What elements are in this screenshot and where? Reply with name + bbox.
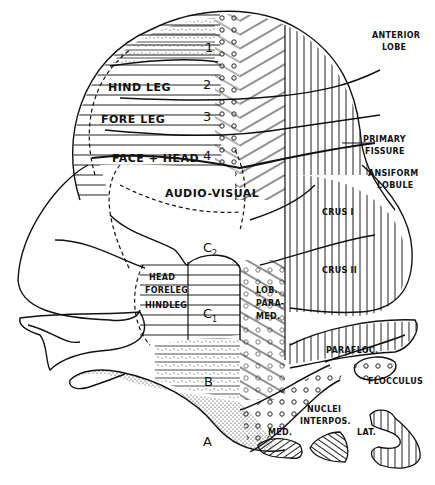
audio-visual-label: AUDIO-VISUAL: [165, 187, 259, 200]
zone-3-number: 3: [203, 109, 211, 124]
paraflocculus-label: PARAFLOC.: [326, 346, 378, 355]
section-c1-subscript: 1: [212, 315, 217, 324]
zone-3-label: FORE LEG: [101, 113, 165, 126]
nucleus-medial: [258, 439, 302, 459]
zone-2-label: HIND LEG: [108, 81, 171, 94]
anterior-lobe-label: ANTERIOR: [372, 31, 420, 40]
ansiform-lobule-label: ANSIFORM: [368, 169, 418, 178]
anterior-lobe-label-2: LOBE: [382, 43, 406, 52]
zone-2-number: 2: [203, 77, 211, 92]
nucleus-lat-label: LAT.: [357, 428, 376, 437]
zone-4-number: 4: [203, 148, 211, 163]
paramedian-head-label: HEAD: [149, 273, 175, 282]
zone-1-number: 1: [205, 40, 213, 55]
cerebellum-diagram: ANTERIOR LOBE PRIMARY FISSURE ANSIFORM L…: [0, 0, 435, 485]
nuclei-label: NUCLEI: [307, 405, 341, 414]
lob-paramed-label-2: PARA-: [256, 299, 285, 308]
lob-paramed-label: LOB.: [256, 286, 278, 295]
lob-paramed-label-3: MED.: [256, 312, 280, 321]
section-c2-subscript: 2: [212, 249, 217, 258]
section-c1-label: C: [203, 306, 212, 321]
paramedian-hindleg-label: HINDLEG: [145, 301, 187, 310]
nucleus-lateral: [370, 410, 420, 468]
ansiform-lobule-label-2: LOBULE: [377, 181, 414, 190]
primary-fissure-label: PRIMARY: [363, 135, 406, 144]
primary-fissure-label-2: FISSURE: [365, 147, 405, 156]
paramedian-foreleg-label: FORELEG: [145, 286, 188, 295]
nucleus-interpositus: [310, 432, 348, 462]
nuclei-interpos-label: INTERPOS.: [300, 417, 351, 426]
crus1-label: CRUS I: [322, 208, 354, 217]
flocculus-label: FLOCCULUS: [368, 377, 423, 386]
zone-4-label: FACE + HEAD: [112, 152, 199, 165]
crus2-label: CRUS II: [322, 266, 357, 275]
nucleus-med-label: MED.: [268, 428, 292, 437]
section-b-label: B: [204, 374, 213, 389]
section-c2-label: C: [203, 240, 212, 255]
section-a-label: A: [203, 434, 212, 449]
